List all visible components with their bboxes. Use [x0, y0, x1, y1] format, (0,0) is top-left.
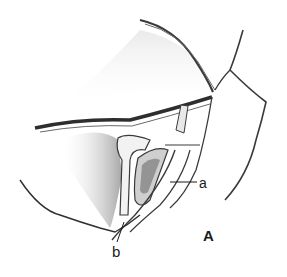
pencil-drawing [0, 0, 287, 277]
label-b: b [112, 244, 120, 259]
anatomical-illustration: a b A [0, 0, 287, 277]
label-a: a [199, 176, 207, 190]
panel-label: A [203, 228, 214, 243]
